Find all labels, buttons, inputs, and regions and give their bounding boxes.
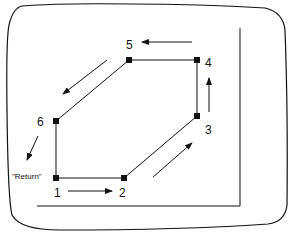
point-4-marker [194,57,200,63]
point-3-label: 3 [205,123,212,137]
screen-frame [7,4,288,230]
point-2-marker [121,175,127,181]
arrow-6-to-return [27,136,38,160]
point-6-marker [53,118,59,124]
point-2-label: 2 [119,186,126,200]
point-4-label: 4 [205,56,212,70]
point-markers [53,57,200,181]
point-5-label: 5 [126,38,133,52]
point-1-marker [53,175,59,181]
return-label: "Return" [12,172,42,181]
point-3-marker [194,113,200,119]
point-6-label: 6 [37,115,44,129]
robot-path [56,60,197,178]
point-1-label: 1 [54,186,61,200]
point-5-marker [126,57,132,63]
arrow-5-to-6 [63,60,107,94]
path-diagram: 1 2 3 4 5 6 "Return" [0,0,293,237]
